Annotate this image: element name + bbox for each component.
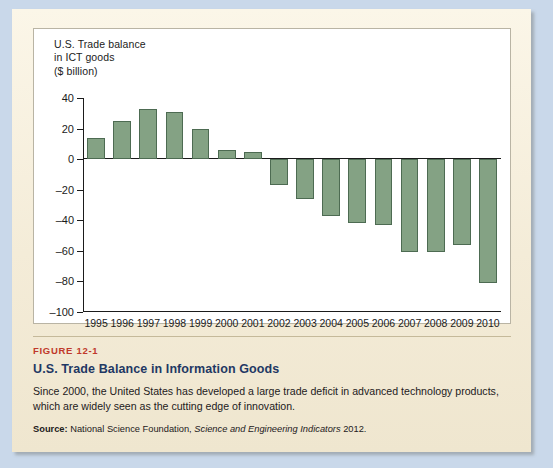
bar <box>192 129 210 160</box>
figure-description: Since 2000, the United States has develo… <box>33 384 503 414</box>
bar <box>166 112 184 159</box>
figure-box: U.S. Trade balance in ICT goods ($ billi… <box>12 9 531 452</box>
bar <box>453 159 471 245</box>
y-tick-label: 40 <box>62 92 74 104</box>
bar <box>479 159 497 283</box>
source-publisher: National Science Foundation, <box>70 424 191 434</box>
bar <box>348 159 366 223</box>
x-tick-label: 2001 <box>241 317 264 329</box>
figure-source: Source: National Science Foundation, Sci… <box>33 424 511 434</box>
bar <box>427 159 445 252</box>
x-tick-label: 2007 <box>398 317 421 329</box>
x-tick-label: 1996 <box>111 317 134 329</box>
page-background: U.S. Trade balance in ICT goods ($ billi… <box>0 0 553 468</box>
bar <box>218 150 236 159</box>
x-tick-label: 2010 <box>476 317 499 329</box>
bar <box>87 138 105 159</box>
y-tick-label: 0 <box>68 153 74 165</box>
figure-inner-surface: U.S. Trade balance in ICT goods ($ billi… <box>12 9 531 452</box>
chart-panel: U.S. Trade balance in ICT goods ($ billi… <box>33 28 511 324</box>
x-tick-label: 2002 <box>267 317 290 329</box>
bar <box>296 159 314 199</box>
y-tick-label: –60 <box>56 245 74 257</box>
y-tick-label: –20 <box>56 184 74 196</box>
x-tick-label: 2009 <box>450 317 473 329</box>
x-tick-label: 1999 <box>189 317 212 329</box>
y-tick-mark <box>77 129 83 130</box>
x-tick-label: 2005 <box>346 317 369 329</box>
y-tick-mark <box>77 251 83 252</box>
source-label: Source: <box>33 424 68 434</box>
x-tick-label: 2000 <box>215 317 238 329</box>
x-axis-line <box>83 311 501 312</box>
y-tick-mark <box>77 159 83 160</box>
x-tick-label: 1997 <box>137 317 160 329</box>
y-axis-line <box>83 98 84 312</box>
bar <box>322 159 340 216</box>
x-tick-label: 2003 <box>293 317 316 329</box>
bar <box>270 159 288 185</box>
y-tick-label: –100 <box>50 306 74 318</box>
bar <box>401 159 419 252</box>
y-tick-mark <box>77 220 83 221</box>
y-tick-mark <box>77 312 83 313</box>
x-tick-label: 2004 <box>320 317 343 329</box>
y-tick-label: –80 <box>56 275 74 287</box>
y-tick-mark <box>77 190 83 191</box>
source-year: 2012. <box>343 424 366 434</box>
chart-axis-title: U.S. Trade balance in ICT goods ($ billi… <box>54 38 146 78</box>
bar <box>375 159 393 225</box>
y-tick-label: 20 <box>62 123 74 135</box>
figure-caption: FIGURE 12-1 U.S. Trade Balance in Inform… <box>33 336 511 434</box>
caption-divider <box>33 336 511 337</box>
x-tick-label: 2006 <box>372 317 395 329</box>
bar <box>139 109 157 159</box>
bar <box>244 152 262 160</box>
x-tick-label: 1998 <box>163 317 186 329</box>
y-tick-mark <box>77 98 83 99</box>
source-title: Science and Engineering Indicators <box>194 424 340 434</box>
bar <box>113 121 131 159</box>
y-tick-mark <box>77 281 83 282</box>
x-tick-label: 1995 <box>84 317 107 329</box>
figure-title: U.S. Trade Balance in Information Goods <box>33 362 511 376</box>
x-tick-label: 2008 <box>424 317 447 329</box>
figure-number: FIGURE 12-1 <box>33 345 511 356</box>
plot-area: 40200–20–40–60–80–100 199519961997199819… <box>83 98 501 312</box>
y-tick-label: –40 <box>56 214 74 226</box>
